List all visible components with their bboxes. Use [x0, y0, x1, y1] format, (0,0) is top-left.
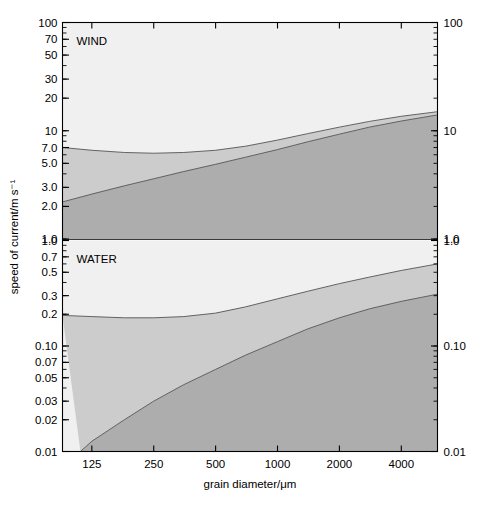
x-tick-label: 125	[82, 458, 101, 470]
y-tick-label-left: 2.0	[42, 200, 58, 212]
y-tick-label-right: 0.01	[444, 446, 466, 458]
y-tick-label-left: 20	[45, 92, 58, 104]
y-tick-label-left: 0.07	[35, 356, 57, 368]
y-tick-label-left: 0.03	[35, 395, 57, 407]
y-tick-label-left: 0.5	[42, 266, 58, 278]
y-tick-label-left: 30	[45, 73, 58, 85]
y-tick-label-left: 3.0	[42, 181, 58, 193]
y-tick-label-right: 1.0	[444, 235, 460, 247]
y-tick-label-right: 100	[444, 17, 463, 29]
x-tick-label: 2000	[327, 458, 353, 470]
y-tick-label-left: 10	[45, 125, 58, 137]
chart-figure: 10070503020107.05.03.02.01.0100101.01.00…	[0, 0, 488, 507]
y-tick-label-left: 0.02	[35, 414, 57, 426]
y-tick-label-left: 50	[45, 49, 58, 61]
water-panel-areas	[63, 241, 438, 452]
plot-areas	[63, 23, 438, 452]
wind-panel-title: WIND	[77, 35, 108, 47]
y-tick-label-left: 0.7	[42, 251, 58, 263]
y-tick-label-left: 1.0	[42, 235, 58, 247]
y-tick-label-left: 0.3	[42, 290, 58, 302]
wind-panel-areas	[63, 23, 438, 240]
x-tick-label: 1000	[265, 458, 291, 470]
y-tick-label-right: 10	[444, 125, 457, 137]
x-tick-label: 4000	[388, 458, 414, 470]
y-tick-label-left: 100	[38, 17, 57, 29]
y-tick-label-right: 0.10	[444, 340, 466, 352]
y-tick-label-left: 0.10	[35, 340, 57, 352]
x-axis-title: grain diameter/μm	[204, 478, 297, 490]
water-panel-title: WATER	[77, 253, 117, 265]
x-tick-label: 500	[206, 458, 225, 470]
y-tick-label-left: 70	[45, 33, 58, 45]
y-tick-label-left: 7.0	[42, 142, 58, 154]
y-axis-title: speed of current/m s⁻¹	[8, 180, 20, 295]
y-tick-label-left: 0.01	[35, 446, 57, 458]
y-tick-label-left: 0.2	[42, 308, 58, 320]
x-tick-label: 250	[144, 458, 163, 470]
chart-canvas: 10070503020107.05.03.02.01.0100101.01.00…	[0, 0, 488, 507]
y-tick-label-left: 0.05	[35, 372, 57, 384]
y-tick-label-left: 5.0	[42, 157, 58, 169]
